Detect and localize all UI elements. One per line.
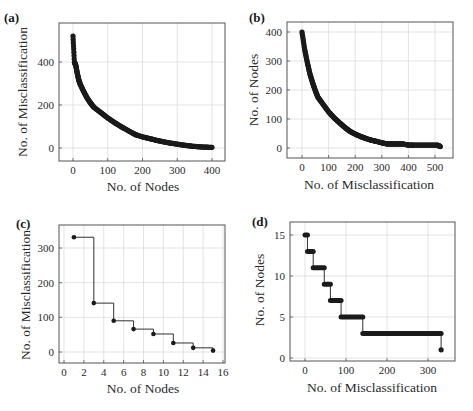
x-axis-label-b: No. of Misclassification: [304, 177, 434, 192]
y-tick-label: 5: [280, 311, 286, 323]
x-tick-label: 300: [374, 161, 391, 173]
x-tick-label: 400: [400, 161, 417, 173]
x-axis-label-d: No. of Misclassification: [307, 380, 437, 395]
data-point: [151, 332, 156, 337]
data-point: [191, 346, 196, 351]
y-tick-label: 15: [274, 229, 286, 241]
y-tick-label: 200: [266, 84, 283, 96]
x-tick-label: 10: [158, 366, 170, 378]
y-tick-label: 10: [274, 270, 286, 282]
y-tick-label: 300: [38, 242, 55, 254]
x-tick-label: 16: [218, 366, 230, 378]
data-point: [439, 347, 444, 352]
data-point: [72, 235, 77, 240]
x-tick-label: 4: [101, 366, 107, 378]
y-axis-label-a: No. of Misclassification: [15, 27, 30, 157]
panel-label-b: (b): [249, 10, 265, 25]
chart-panel-d: 0100200300051015: [274, 222, 455, 376]
x-tick-label: 200: [347, 161, 364, 173]
x-tick-label: 2: [81, 366, 87, 378]
panel-label-c: (c): [16, 216, 30, 231]
x-tick-label: 200: [379, 364, 396, 376]
y-tick-label: 100: [38, 311, 55, 323]
y-tick-label: 0: [280, 352, 286, 364]
x-tick-label: 0: [61, 366, 67, 378]
panel-label-d: (d): [252, 214, 268, 229]
x-tick-label: 12: [178, 366, 189, 378]
panel-label-a: (a): [4, 10, 19, 25]
x-tick-label: 300: [169, 164, 186, 176]
x-tick-label: 6: [121, 366, 127, 378]
x-tick-label: 500: [427, 161, 444, 173]
y-tick-label: 0: [49, 142, 55, 154]
y-axis-label-b: No. of Nodes: [246, 54, 261, 126]
data-point: [211, 348, 216, 353]
x-tick-label: 100: [320, 161, 337, 173]
plot-area: [290, 222, 455, 361]
y-axis-label-d: No. of Nodes: [252, 254, 267, 326]
y-tick-label: 100: [266, 113, 283, 125]
x-tick-label: 0: [70, 164, 76, 176]
data-point: [111, 319, 116, 324]
data-point: [438, 144, 443, 149]
data-point: [92, 301, 97, 306]
x-tick-label: 0: [299, 161, 305, 173]
x-tick-label: 0: [302, 364, 308, 376]
x-tick-label: 100: [338, 364, 355, 376]
x-tick-label: 200: [134, 164, 151, 176]
data-point: [131, 327, 136, 332]
y-tick-label: 400: [266, 26, 283, 38]
chart-panel-a: 01002003004000200400: [38, 23, 226, 176]
x-axis-label-a: No. of Nodes: [107, 179, 179, 194]
y-tick-label: 200: [38, 99, 55, 111]
y-tick-label: 400: [38, 56, 55, 68]
chart-panel-c: 02468101214160100200300: [38, 225, 230, 378]
x-tick-label: 8: [141, 366, 147, 378]
data-point: [209, 145, 214, 150]
y-tick-label: 0: [49, 346, 55, 358]
data-point: [171, 341, 176, 346]
figure: 01002003004000200400 0100200300400500010…: [0, 0, 473, 411]
x-tick-label: 14: [198, 366, 210, 378]
y-tick-label: 0: [277, 142, 283, 154]
y-axis-label-c: No. of Misclassification: [18, 230, 33, 360]
x-tick-label: 400: [204, 164, 221, 176]
y-tick-label: 300: [266, 55, 283, 67]
y-tick-label: 200: [38, 277, 55, 289]
x-tick-label: 300: [420, 364, 437, 376]
chart-panel-b: 01002003004005000100200300400: [266, 22, 454, 173]
x-tick-label: 100: [100, 164, 117, 176]
x-axis-label-c: No. of Nodes: [107, 381, 179, 396]
